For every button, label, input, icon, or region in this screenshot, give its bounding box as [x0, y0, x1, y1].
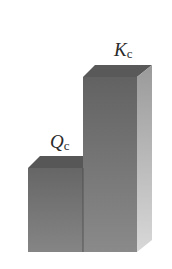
bar-kc-front — [83, 77, 137, 252]
bar-qc-top — [28, 156, 83, 168]
bar-qc-front — [28, 168, 83, 252]
bar-kc — [83, 65, 152, 252]
label-qc: Qc — [50, 131, 70, 153]
bar-qc — [28, 156, 83, 252]
bar-kc-side — [137, 65, 152, 252]
label-kc: Kc — [113, 39, 133, 61]
qc-kc-bar-diagram: Qc Kc — [0, 0, 172, 269]
